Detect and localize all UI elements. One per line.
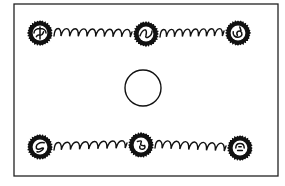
spring-bottom-left-to-bottom-middle (54, 141, 127, 150)
spring-bottom-middle-to-bottom-right (155, 141, 226, 151)
node-top-right (225, 20, 251, 46)
node-top-middle (133, 21, 159, 47)
node-top-left (27, 20, 53, 46)
node-bottom-middle (128, 132, 154, 158)
spring-top-middle-to-top-right (160, 29, 224, 37)
nodes-group (27, 20, 253, 161)
node-bottom-left (27, 134, 53, 160)
node-bottom-right (227, 135, 253, 161)
spring-top-left-to-top-middle (54, 29, 132, 37)
diagram-canvas (0, 0, 285, 186)
springs-group (54, 29, 226, 151)
center-circle (125, 70, 161, 106)
